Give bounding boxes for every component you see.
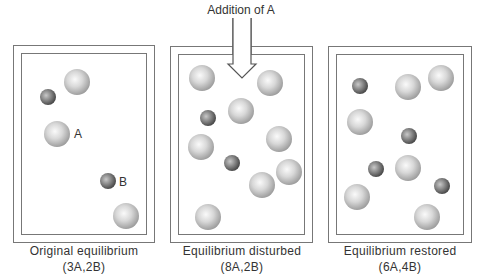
sphere-a [257, 70, 283, 96]
sphere-b [401, 128, 417, 144]
sphere-a [428, 65, 454, 91]
caption-counts: (8A,2B) [160, 259, 324, 275]
caption-title: Equilibrium disturbed [160, 243, 324, 259]
label-b: B [119, 175, 127, 189]
caption-title: Original equilibrium [0, 243, 168, 259]
sphere-a [395, 74, 421, 100]
sphere-b [352, 78, 368, 94]
sphere-a [44, 121, 70, 147]
sphere-a [344, 184, 370, 210]
caption-title: Equilibrium restored [318, 243, 479, 259]
sphere-a [64, 69, 90, 95]
sphere-a [228, 98, 254, 124]
caption-restored: Equilibrium restored (6A,4B) [318, 243, 479, 275]
sphere-a [395, 155, 421, 181]
sphere-a [113, 203, 139, 229]
sphere-a [189, 65, 215, 91]
caption-counts: (6A,4B) [318, 259, 479, 275]
sphere-a [266, 126, 292, 152]
sphere-a [276, 159, 302, 185]
sphere-b [100, 173, 116, 189]
sphere-b [434, 178, 450, 194]
sphere-a [347, 109, 373, 135]
arrow-head-overlay [222, 18, 262, 80]
sphere-a [195, 204, 221, 230]
label-a: A [74, 127, 82, 141]
sphere-b [200, 110, 216, 126]
sphere-b [368, 161, 384, 177]
sphere-a [414, 204, 440, 230]
sphere-b [224, 155, 240, 171]
caption-disturbed: Equilibrium disturbed (8A,2B) [160, 243, 324, 275]
sphere-a [188, 134, 214, 160]
caption-original: Original equilibrium (3A,2B) [0, 243, 168, 275]
sphere-b [40, 89, 56, 105]
sphere-a [249, 172, 275, 198]
caption-counts: (3A,2B) [0, 259, 168, 275]
addition-label: Addition of A [181, 3, 301, 17]
